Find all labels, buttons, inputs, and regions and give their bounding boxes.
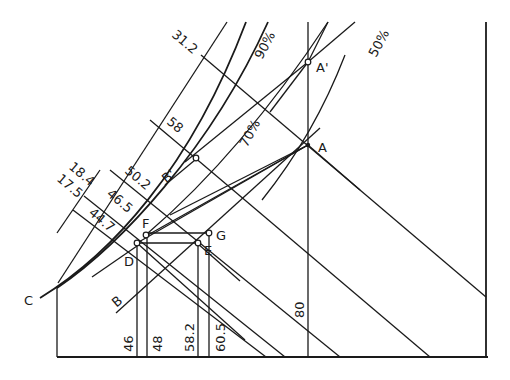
label-60-5: 60.5	[213, 323, 228, 352]
point-B-prime	[193, 155, 199, 161]
label-44-7: 44.7	[86, 205, 118, 235]
point-D	[134, 240, 140, 246]
label-G: G	[216, 228, 226, 243]
point-F	[143, 232, 149, 238]
diagonal-scale-labels: 31.2 58 50.2 18.4 17.5 46.5 44.7	[54, 27, 201, 235]
point-E	[195, 240, 201, 246]
label-80: 80	[292, 301, 307, 318]
curve-labels: 90% 70% 50%	[236, 27, 392, 150]
line-44-7	[73, 210, 266, 357]
point-A	[306, 143, 310, 147]
label-F: F	[142, 216, 149, 231]
label-58-2: 58.2	[182, 323, 197, 352]
label-E: E	[204, 243, 212, 258]
line-58-b	[200, 162, 430, 357]
label-A-prime: A'	[316, 60, 328, 75]
label-31-2: 31.2	[169, 27, 201, 57]
label-50-2: 50.2	[122, 163, 154, 193]
vertical-scale-labels: 46 48 58.2 60.5 80	[121, 301, 307, 352]
label-90-pct: 90%	[251, 29, 278, 62]
label-46: 46	[121, 335, 136, 352]
line-from-A	[308, 145, 360, 190]
ray-70-Ap	[270, 62, 308, 112]
construction-diagram: A' A C B B' D F E G 90% 70% 50% 31.2 58 …	[0, 0, 510, 380]
label-46-5: 46.5	[104, 186, 136, 216]
label-70-pct: 70%	[236, 117, 263, 150]
label-50-pct: 50%	[365, 27, 392, 60]
ray-3-A	[170, 145, 308, 215]
point-A-prime	[305, 59, 311, 65]
point-G	[206, 230, 212, 236]
curve-90	[57, 22, 268, 288]
label-A: A	[318, 140, 327, 155]
points	[134, 59, 311, 246]
label-D: D	[124, 254, 134, 269]
curve-50	[262, 55, 345, 200]
ray-Ap-upper2	[308, 22, 328, 62]
curves	[40, 22, 345, 298]
label-58: 58	[164, 114, 186, 136]
curve-100	[40, 22, 246, 298]
label-48: 48	[150, 335, 165, 352]
label-C: C	[24, 293, 33, 308]
